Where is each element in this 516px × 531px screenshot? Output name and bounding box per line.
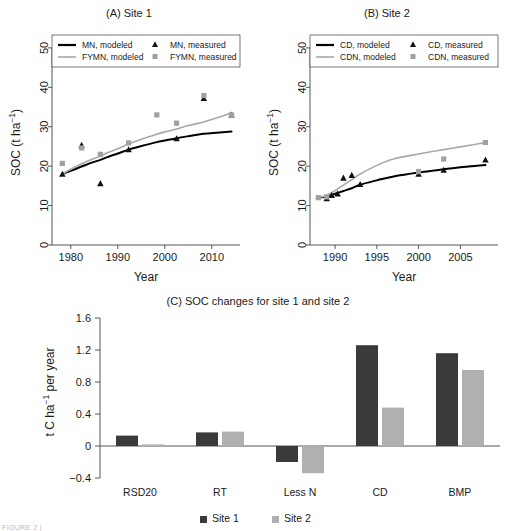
measured-point-square xyxy=(174,121,179,126)
x-tick-label: 2000 xyxy=(406,251,430,263)
bar-site1 xyxy=(356,345,378,446)
bar-site2 xyxy=(302,446,324,473)
x-tick-label: 2000 xyxy=(153,251,177,263)
figure-root: (A) Site 1 010203040501980199020002010Ye… xyxy=(0,0,516,531)
panel-a-plot: 010203040501980199020002010YearSOC (t ha… xyxy=(0,0,258,290)
y-tick-label: 50 xyxy=(296,42,308,54)
panel-c-title: (C) SOC changes for site 1 and site 2 xyxy=(0,295,516,307)
x-category-label: BMP xyxy=(449,486,472,498)
x-tick-label: 2005 xyxy=(448,251,472,263)
legend-entry: Site 1 xyxy=(200,512,239,524)
panel-b-title: (B) Site 2 xyxy=(258,7,516,19)
legend-label: CDN, measured xyxy=(428,52,489,62)
y-tick-label: 10 xyxy=(38,199,50,211)
bar-site2 xyxy=(142,444,164,446)
legend-label: CD, measured xyxy=(428,40,483,50)
measured-point-square xyxy=(324,194,329,199)
bar-site1 xyxy=(196,432,218,446)
panel-a-title: (A) Site 1 xyxy=(0,7,258,19)
y-tick-label: 20 xyxy=(38,160,50,172)
measured-point-square xyxy=(229,112,234,117)
y-tick-label: 20 xyxy=(296,160,308,172)
bar-site2 xyxy=(222,432,244,446)
panel-b-plot: 010203040501990199520002005YearSOC (t ha… xyxy=(258,0,516,290)
y-tick-label: 40 xyxy=(38,81,50,93)
panel-a-site1: (A) Site 1 010203040501980199020002010Ye… xyxy=(0,0,258,290)
measured-point-triangle xyxy=(340,175,346,181)
x-category-label: CD xyxy=(372,486,388,498)
y-tick-label: 30 xyxy=(38,121,50,133)
legend-label: MN, modeled xyxy=(82,40,133,50)
y-tick-label: 0 xyxy=(38,242,50,248)
y-tick-label: 0.4 xyxy=(76,408,91,420)
measured-point-square xyxy=(416,169,421,174)
measured-point-square xyxy=(441,156,446,161)
measured-point-square xyxy=(316,195,321,200)
x-category-label: RT xyxy=(213,486,227,498)
legend-entry: Site 2 xyxy=(272,512,311,524)
measured-point-square xyxy=(126,140,131,145)
y-tick-label: 0 xyxy=(85,440,91,452)
figure-caption-fragment: FIGURE 2 | xyxy=(2,524,42,531)
y-tick-label: 1.2 xyxy=(76,344,91,356)
legend-label: CDN, modeled xyxy=(340,52,396,62)
x-tick-label: 1995 xyxy=(365,251,389,263)
bar-site1 xyxy=(116,436,138,446)
legend-label: Site 1 xyxy=(212,512,239,524)
bar-site2 xyxy=(382,408,404,446)
panel-c-soc-changes: (C) SOC changes for site 1 and site 2 −0… xyxy=(0,290,516,531)
x-tick-label: 2010 xyxy=(200,251,224,263)
measured-point-square xyxy=(60,161,65,166)
y-tick-label: 40 xyxy=(296,81,308,93)
x-tick-label: 1990 xyxy=(106,251,130,263)
panel-b-site2: (B) Site 2 010203040501990199520002005Ye… xyxy=(258,0,516,290)
panel-c-plot: −0.400.40.81.21.6t C ha−1 per yearRSD20R… xyxy=(0,290,516,531)
x-tick-label: 1980 xyxy=(59,251,83,263)
measured-point-square xyxy=(201,93,206,98)
x-axis-label: Year xyxy=(392,270,416,284)
y-tick-label: 50 xyxy=(38,42,50,54)
measured-point-square xyxy=(483,140,488,145)
legend-swatch-icon xyxy=(200,516,207,523)
y-axis-label: t C ha−1 per year xyxy=(41,347,57,436)
y-axis-label: SOC (t ha−1) xyxy=(7,109,23,176)
bar-site1 xyxy=(436,353,458,446)
x-category-label: RSD20 xyxy=(123,486,157,498)
series-line xyxy=(318,165,485,198)
legend-label: Site 2 xyxy=(284,512,311,524)
measured-point-triangle xyxy=(349,172,355,178)
y-tick-label: 1.6 xyxy=(76,312,91,324)
legend-square-icon xyxy=(153,54,158,59)
legend-label: MN, measured xyxy=(170,40,226,50)
legend-square-icon xyxy=(411,54,416,59)
x-axis-label: Year xyxy=(134,270,158,284)
measured-point-square xyxy=(154,112,159,117)
y-tick-label: 10 xyxy=(296,199,308,211)
legend-label: FYMN, measured xyxy=(170,52,237,62)
bar-site1 xyxy=(276,446,298,462)
x-category-label: Less N xyxy=(284,486,317,498)
y-tick-label: −0.4 xyxy=(69,472,91,484)
bar-site2 xyxy=(462,370,484,446)
measured-point-square xyxy=(98,152,103,157)
y-tick-label: 30 xyxy=(296,121,308,133)
series-line xyxy=(318,143,485,198)
measured-point-square xyxy=(79,145,84,150)
legend-swatch-icon xyxy=(272,516,279,523)
legend-label: FYMN, modeled xyxy=(82,52,144,62)
y-axis-label: SOC (t ha−1) xyxy=(265,109,281,176)
y-tick-label: 0.8 xyxy=(76,376,91,388)
y-tick-label: 0 xyxy=(296,242,308,248)
x-tick-label: 1990 xyxy=(323,251,347,263)
measured-point-triangle xyxy=(97,180,103,186)
measured-point-triangle xyxy=(482,156,488,162)
legend-label: CD, modeled xyxy=(340,40,390,50)
